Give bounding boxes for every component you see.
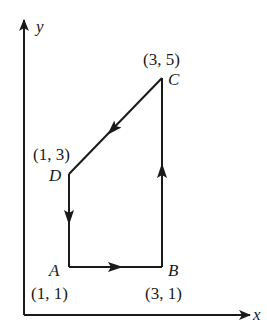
cycle-diagram: y x A (1, 1) B (3, 1) C (3, 5) D (1, 3) [0, 0, 267, 332]
point-b-label: B [168, 261, 179, 280]
direction-arrows [64, 120, 167, 272]
cycle-path [69, 78, 162, 267]
point-a-coord: (1, 1) [31, 284, 68, 303]
point-d-coord: (1, 3) [33, 145, 70, 164]
x-axis-label: x [252, 305, 261, 324]
point-d-label: D [48, 166, 62, 185]
point-c-coord: (3, 5) [143, 50, 180, 69]
point-a-label: A [48, 261, 60, 280]
point-c-label: C [168, 70, 180, 89]
y-axis-label: y [34, 17, 44, 36]
point-b-coord: (3, 1) [145, 284, 182, 303]
